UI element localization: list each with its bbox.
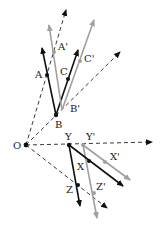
vector-YpZp <box>83 145 97 218</box>
point-C <box>66 77 70 81</box>
label-X: X <box>77 161 85 172</box>
ray-through-Y <box>26 142 152 145</box>
label-C: C <box>60 66 68 77</box>
point-O <box>24 143 29 148</box>
label-Cprime: C' <box>84 53 94 64</box>
point-B <box>54 113 58 117</box>
label-Zprime: Z' <box>96 181 106 192</box>
label-O: O <box>13 140 21 151</box>
upper-body-transformed <box>49 20 94 110</box>
vector-YZ <box>69 145 80 206</box>
label-Yprime: Y' <box>85 131 95 142</box>
rotation-diagram: O A A' B B' C C' Y Y' X X' Z Z' <box>0 0 162 226</box>
point-X <box>87 159 91 163</box>
label-Z: Z <box>66 184 73 195</box>
label-Y: Y <box>64 131 72 142</box>
label-Bprime: B' <box>70 103 80 114</box>
point-Y <box>67 143 71 147</box>
point-Aprime <box>52 50 56 54</box>
point-Xprime <box>103 160 107 164</box>
point-Yprime <box>81 143 85 147</box>
label-B: B <box>55 119 62 130</box>
point-Z <box>76 183 80 187</box>
label-A: A <box>34 69 43 80</box>
vector-BpCp <box>62 20 94 110</box>
label-Xprime: X' <box>110 151 120 162</box>
point-Cprime <box>78 59 82 63</box>
label-Aprime: A' <box>57 41 68 52</box>
point-A <box>45 73 49 77</box>
